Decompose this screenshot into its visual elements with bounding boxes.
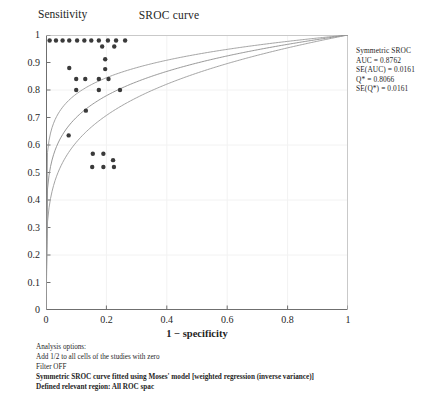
gridlines	[46, 35, 348, 310]
sroc-chart-figure: SROC curve Sensitivity 00.10.20.30.40.50…	[0, 0, 434, 401]
sroc-curves	[46, 35, 348, 310]
legend-line-0: Symmetric SROC	[356, 46, 434, 56]
stats-legend: Symmetric SROCAUC = 0.8762SE(AUC) = 0.01…	[356, 46, 434, 94]
y-axis-label: Sensitivity	[38, 8, 87, 20]
x-tick-label: 0.6	[212, 314, 242, 325]
x-tick-label: 1	[333, 314, 363, 325]
x-tick-label: 0.2	[91, 314, 121, 325]
y-tick-label: 0.8	[10, 84, 40, 95]
plot-area	[46, 35, 348, 310]
y-tick-label: 0.6	[10, 139, 40, 150]
tick-marks	[46, 35, 348, 310]
plot-svg	[46, 35, 348, 310]
x-tick-label: 0	[31, 314, 61, 325]
y-tick-label: 0.3	[10, 222, 40, 233]
study-points	[47, 38, 127, 169]
footnote-line-1: Add 1/2 to all cells of the studies with…	[36, 353, 428, 363]
y-tick-label: 0.4	[10, 194, 40, 205]
legend-line-1: AUC = 0.8762	[356, 56, 434, 66]
analysis-footnotes: Analysis options:Add 1/2 to all cells of…	[36, 343, 428, 393]
y-tick-label: 0.9	[10, 57, 40, 68]
y-tick-label: 0.5	[10, 167, 40, 178]
legend-line-3: Q* = 0.8066	[356, 75, 434, 85]
footnote-line-3: Symmetric SROC curve fitted using Moses'…	[36, 373, 428, 383]
legend-line-4: SE(Q*) = 0.0161	[356, 84, 434, 94]
footnote-line-4: Defined relevant region: All ROC spac	[36, 383, 428, 393]
y-tick-label: 0.2	[10, 249, 40, 260]
x-tick-label: 0.4	[152, 314, 182, 325]
axis-lines	[46, 35, 348, 310]
y-tick-label: 0.1	[10, 277, 40, 288]
y-tick-label: 0.7	[10, 112, 40, 123]
y-tick-label: 1	[10, 29, 40, 40]
legend-line-2: SE(AUC) = 0.0161	[356, 65, 434, 75]
footnote-line-2: Filter OFF	[36, 363, 428, 373]
footnote-line-0: Analysis options:	[36, 343, 428, 353]
x-axis-label: 1 − specificity	[46, 328, 348, 339]
x-tick-label: 0.8	[273, 314, 303, 325]
